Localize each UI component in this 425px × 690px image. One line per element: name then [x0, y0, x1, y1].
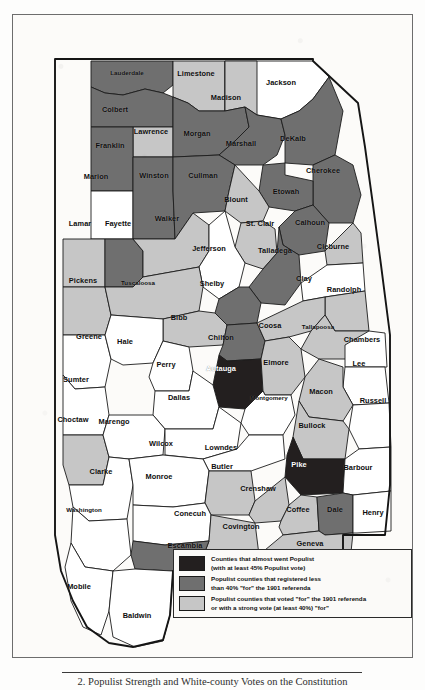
legend-row: Populist counties that registered less t… — [179, 575, 407, 592]
county-butler — [205, 471, 255, 515]
county-colbert — [91, 87, 173, 127]
figure-container: LauderdaleLimestoneJacksonMadisonColbert… — [0, 0, 425, 690]
legend-swatch-populist-voted-for — [179, 596, 205, 611]
county-hale — [105, 315, 163, 365]
legend-label: Populist counties that registered less t… — [211, 575, 321, 592]
legend-label: Counties that almost went Populist (with… — [211, 555, 314, 572]
figure-caption: 2. Populist Strength and White-county Vo… — [0, 676, 425, 687]
county-lamar — [63, 239, 105, 287]
county-franklin — [91, 127, 133, 191]
county-conecuh — [133, 503, 211, 545]
county-lauderdale — [91, 61, 173, 95]
county-marengo — [103, 415, 165, 459]
county-lawrence — [133, 127, 173, 157]
county-fayette — [105, 239, 143, 287]
county-dale — [317, 493, 353, 535]
county-cleburne — [325, 223, 363, 265]
county-russell — [349, 403, 391, 449]
map-plate: LauderdaleLimestoneJacksonMadisonColbert… — [12, 14, 413, 658]
legend-line-1: Counties that almost went Populist — [211, 555, 314, 564]
legend-line-2: or with a strong vote (at least 40%) "fo… — [211, 604, 366, 613]
legend-line-2: than 40% "for" the 1901 referenda — [211, 584, 321, 593]
legend-swatch-populist-low-for — [179, 576, 205, 591]
county-choctaw — [63, 435, 109, 485]
county-barbour — [343, 447, 391, 495]
legend-line-1: Populist counties that registered less — [211, 575, 321, 584]
legend-label: Populist counties that voted "for" the 1… — [211, 595, 366, 612]
legend-line-1: Populist counties that voted "for" the 1… — [211, 595, 366, 604]
county-madison — [225, 61, 257, 115]
legend-row: Populist counties that voted "for" the 1… — [179, 595, 407, 612]
legend-row: Counties that almost went Populist (with… — [179, 555, 407, 572]
county-marion — [91, 191, 133, 239]
county-elmore — [261, 337, 305, 395]
county-greene — [63, 335, 111, 389]
map-legend: Counties that almost went Populist (with… — [173, 549, 412, 618]
legend-line-2: (with at least 45% Populist vote) — [211, 564, 314, 573]
caption-rule — [62, 672, 362, 673]
county-monroe — [129, 455, 209, 507]
county-pickens — [63, 287, 111, 335]
county-chilton — [219, 323, 265, 361]
legend-swatch-almost-populist — [179, 556, 205, 571]
county-winston — [133, 157, 175, 239]
